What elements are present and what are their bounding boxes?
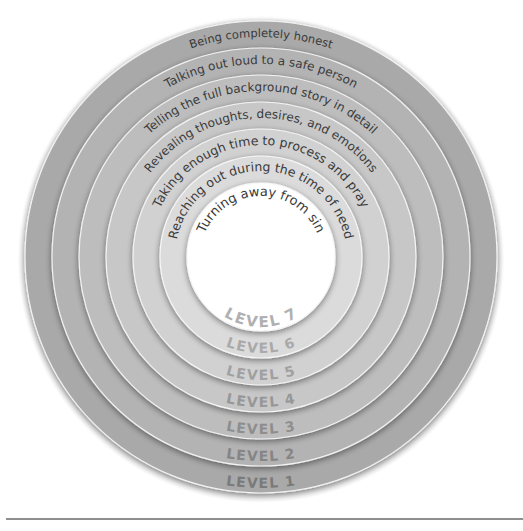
ring-level-7-center — [187, 183, 335, 331]
bottom-divider-line — [6, 518, 523, 520]
level-label-1: LEVEL 1 — [225, 472, 296, 491]
concentric-levels-diagram: Being completely honest Talking out loud… — [0, 0, 523, 531]
